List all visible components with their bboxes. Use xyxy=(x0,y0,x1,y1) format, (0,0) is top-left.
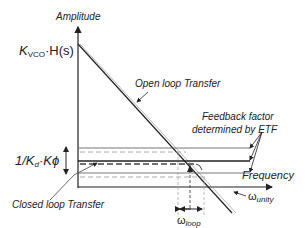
open-loop-label: Open loop Transfer xyxy=(135,79,220,89)
closed-loop-label: Closed loop Transfer xyxy=(12,200,104,210)
y-axis-label: Amplitude xyxy=(56,12,100,22)
x-axis-label: Frequency xyxy=(242,170,294,181)
omega-loop-label: ωloop xyxy=(177,215,201,228)
feedback-gain-label: 1/Kd·Kϕ xyxy=(15,154,59,169)
omega-unity-label: ωunity xyxy=(248,191,274,204)
feedback-factor-label-2: determined by ETF xyxy=(192,125,277,135)
kvco-label: KVCO·H(s) xyxy=(19,44,74,59)
feedback-factor-label-1: Feedback factor xyxy=(202,112,274,122)
